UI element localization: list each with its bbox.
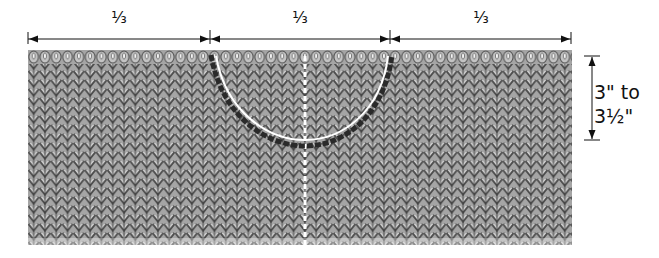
segment-label-left: ⅓ [99,8,139,27]
height-label-line1: 3" to [594,80,656,104]
segment-label-right: ⅓ [461,8,501,27]
height-label-line2: 3½" [594,104,656,128]
top-dimension-lines [28,30,571,44]
segment-label-center: ⅓ [280,8,320,27]
knitting-neckline-diagram [0,0,659,258]
height-label: 3" to 3½" [594,80,656,128]
